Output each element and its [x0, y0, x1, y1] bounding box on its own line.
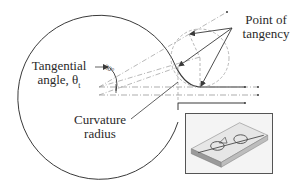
tangential-angle-line1: Tangential — [24, 59, 94, 73]
endpoint-dot — [244, 86, 246, 88]
curvature-radius-label: Curvature radius — [68, 113, 132, 141]
tangential-angle-line2: angle, θt — [24, 73, 94, 93]
endpoint-dot — [257, 86, 259, 88]
curvature-radius-line2: radius — [68, 127, 132, 141]
radial-line-1 — [99, 12, 227, 87]
curvature-radius-leader — [131, 82, 178, 119]
chip-rendering — [186, 114, 272, 173]
point-of-tangency-line1: Point of — [236, 13, 296, 27]
point-of-tangency-label: Point of tangency — [236, 13, 296, 41]
fillet-curve — [176, 67, 201, 87]
large-circle-outline — [18, 15, 178, 179]
tangency-arrow-3 — [201, 28, 232, 86]
point-of-tangency-line2: tangency — [236, 27, 296, 41]
tangential-angle-subscript: t — [78, 81, 80, 90]
curvature-radius-line1: Curvature — [68, 113, 132, 127]
chip-inset-image — [185, 113, 273, 174]
tangency-arrow-2 — [179, 28, 232, 66]
endpoint-dot — [244, 102, 246, 104]
endpoint-dot — [226, 11, 228, 13]
tangential-angle-text: angle, θ — [37, 72, 78, 87]
tangential-angle-label: Tangential angle, θt — [24, 59, 94, 93]
endpoint-dot — [257, 94, 259, 96]
